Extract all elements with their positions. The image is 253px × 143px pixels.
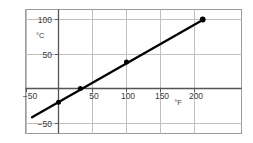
y-tick-label-100: 100 [38,15,52,25]
x-tick-label-neg50: −50 [23,91,38,101]
y-tick-label-neg50: −50 [38,119,53,129]
x-tick-label-100: 100 [121,91,135,101]
x-tick-label-150: 150 [155,91,169,101]
x-tick-label-200: 200 [189,91,203,101]
data-point-212F [200,17,206,23]
data-point-0F [56,100,61,105]
conversion-line-chart: 100 50 −50 −50 50 100 150 200 °C °F [0,0,253,143]
x-tick-label-50: 50 [89,91,99,101]
data-point-100F [124,60,129,65]
data-point-32F [78,86,83,91]
x-axis-title: °F [174,98,182,107]
y-axis-title: °C [36,31,45,40]
chart-container: 100 50 −50 −50 50 100 150 200 °C °F [0,0,253,143]
y-tick-label-50: 50 [43,50,53,60]
